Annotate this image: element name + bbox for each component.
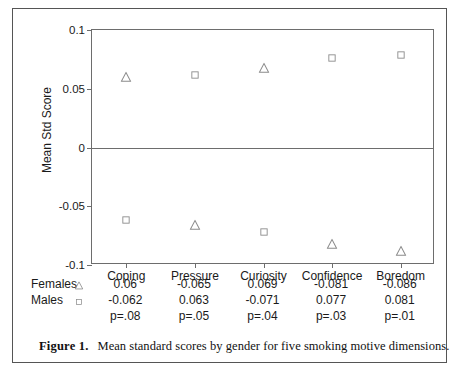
data-point-females-pressure xyxy=(189,220,200,231)
data-point-males-confidence xyxy=(327,53,337,63)
zero-line xyxy=(92,148,433,149)
data-point-males-curiosity xyxy=(259,227,269,237)
data-point-females-curiosity xyxy=(258,62,269,73)
y-tick-label: 0 xyxy=(79,142,85,154)
table-row: p=.08p=.05p=.04p=.03p=.01 xyxy=(13,309,446,325)
table-cell: 0.06 xyxy=(114,277,137,291)
data-point-males-pressure xyxy=(190,70,200,80)
table-row: Females0.06-0.0650.069-0.081-0.086 xyxy=(13,277,446,293)
data-value-table: Females0.06-0.0650.069-0.081-0.086Males-… xyxy=(13,277,446,333)
y-tick-mark xyxy=(87,265,92,266)
table-cell: 0.081 xyxy=(385,293,415,307)
square-icon xyxy=(75,292,83,310)
data-point-females-boredom xyxy=(395,245,406,256)
y-tick-mark xyxy=(87,89,92,90)
data-point-males-boredom xyxy=(396,50,406,60)
x-tick-mark xyxy=(195,263,196,268)
y-tick-label: 0.1 xyxy=(69,24,85,36)
y-tick-label: 0.05 xyxy=(63,83,85,95)
y-axis-title: Mean Std Score xyxy=(40,87,54,173)
data-point-females-coping xyxy=(121,72,132,83)
plot-area: 0.10.050-0.05-0.1 CopingPressureCuriosit… xyxy=(91,29,434,264)
x-tick-mark xyxy=(264,263,265,268)
row-label-males: Males xyxy=(31,293,63,307)
figure-caption: Figure 1.Mean standard scores by gender … xyxy=(39,339,449,354)
table-cell: -0.071 xyxy=(245,293,279,307)
figure-frame: Mean Std Score 0.10.050-0.05-0.1 CopingP… xyxy=(12,8,447,363)
data-point-females-confidence xyxy=(327,238,338,249)
y-tick-label: -0.05 xyxy=(59,200,85,212)
y-tick-mark xyxy=(87,30,92,31)
table-cell: 0.069 xyxy=(247,277,277,291)
y-tick-mark xyxy=(87,206,92,207)
table-cell: p=.05 xyxy=(179,309,209,323)
caption-label: Figure 1. xyxy=(39,339,88,353)
caption-text: Mean standard scores by gender for five … xyxy=(97,339,449,353)
table-cell: 0.063 xyxy=(179,293,209,307)
table-cell: -0.086 xyxy=(383,277,417,291)
data-point-males-coping xyxy=(121,215,131,225)
table-cell: p=.08 xyxy=(110,309,140,323)
table-cell: p=.01 xyxy=(385,309,415,323)
table-row: Males-0.0620.063-0.0710.0770.081 xyxy=(13,293,446,309)
table-cell: p=.03 xyxy=(316,309,346,323)
table-cell: -0.081 xyxy=(314,277,348,291)
table-cell: 0.077 xyxy=(316,293,346,307)
row-label-females: Females xyxy=(31,277,77,291)
x-tick-mark xyxy=(126,263,127,268)
table-cell: p=.04 xyxy=(247,309,277,323)
table-cell: -0.065 xyxy=(177,277,211,291)
x-tick-mark xyxy=(401,263,402,268)
table-cell: -0.062 xyxy=(108,293,142,307)
y-tick-label: -0.1 xyxy=(65,259,85,271)
x-tick-mark xyxy=(332,263,333,268)
